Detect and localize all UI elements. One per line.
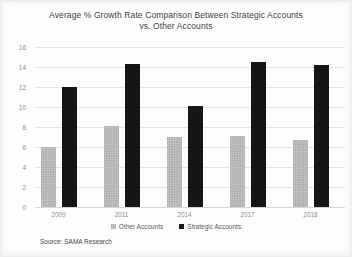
y-tick-label-10: 10 (4, 104, 26, 111)
x-axis-label-2011: 2011 (90, 211, 153, 218)
gridline-0 (35, 207, 345, 208)
y-tick-label-14: 14 (4, 64, 26, 71)
bar-group-2018 (279, 47, 342, 207)
bar-other-accounts-2009 (41, 147, 56, 207)
bar-group-2011 (90, 47, 153, 207)
legend-item-other-accounts: Other Accounts (111, 223, 163, 230)
legend: Other AccountsStrategic Accounts (0, 223, 352, 230)
y-tick-label-8: 8 (4, 124, 26, 131)
y-axis: 0246810121416 (4, 47, 26, 207)
legend-swatch-strategic-accounts (179, 224, 184, 229)
bar-other-accounts-2017 (230, 136, 245, 207)
legend-swatch-other-accounts (111, 224, 116, 229)
bar-strategic-accounts-2017 (251, 62, 266, 207)
bar-other-accounts-2011 (104, 126, 119, 207)
bar-group-2009 (27, 47, 90, 207)
bar-strategic-accounts-2018 (314, 65, 329, 207)
bar-other-accounts-2018 (293, 140, 308, 207)
y-tick-label-4: 4 (4, 164, 26, 171)
x-axis: 20092011201420172018 (27, 211, 342, 218)
y-tick-label-6: 6 (4, 144, 26, 151)
y-tick-label-2: 2 (4, 184, 26, 191)
bar-strategic-accounts-2009 (62, 87, 77, 207)
chart-title-line-2: vs. Other Accounts (20, 21, 332, 32)
legend-item-strategic-accounts: Strategic Accounts (179, 223, 241, 230)
legend-label-other-accounts: Other Accounts (119, 223, 163, 230)
chart-title: Average % Growth Rate Comparison Between… (20, 10, 332, 33)
bar-strategic-accounts-2011 (125, 64, 140, 207)
bar-group-2017 (216, 47, 279, 207)
legend-label-strategic-accounts: Strategic Accounts (187, 223, 241, 230)
x-axis-label-2009: 2009 (27, 211, 90, 218)
bar-strategic-accounts-2014 (188, 106, 203, 207)
x-axis-label-2017: 2017 (216, 211, 279, 218)
bar-group-2014 (153, 47, 216, 207)
source-note: Source: SAMA Research (40, 238, 112, 245)
bars-row (27, 47, 342, 207)
y-tick-label-12: 12 (4, 84, 26, 91)
x-axis-label-2014: 2014 (153, 211, 216, 218)
y-tick-label-16: 16 (4, 44, 26, 51)
y-tick-label-0: 0 (4, 204, 26, 211)
chart-title-line-1: Average % Growth Rate Comparison Between… (20, 10, 332, 21)
bar-other-accounts-2014 (167, 137, 182, 207)
x-axis-label-2018: 2018 (279, 211, 342, 218)
